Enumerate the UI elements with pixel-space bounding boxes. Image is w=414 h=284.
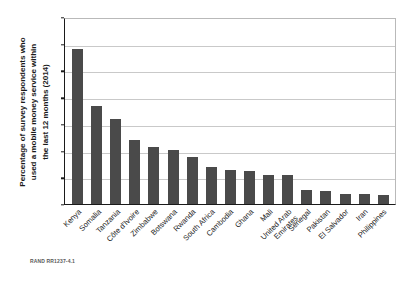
bar	[72, 49, 83, 204]
figure-credit: RAND RR1237-4.1	[30, 258, 75, 264]
bar	[320, 191, 331, 204]
bar	[129, 140, 140, 204]
x-axis-labels: KenyaSomaliaTanzaniaCôte d'IvoireZimbabw…	[64, 205, 396, 267]
bar	[359, 194, 370, 204]
y-axis-title-line-3: the last 12 months (2014)	[40, 37, 51, 186]
bar	[282, 175, 293, 204]
bar	[91, 106, 102, 204]
bar	[110, 119, 121, 204]
bar	[168, 150, 179, 204]
bar	[244, 171, 255, 204]
bar	[206, 167, 217, 204]
bar	[187, 157, 198, 204]
y-axis-title: Percentage of survey respondents who use…	[14, 14, 54, 210]
bar	[340, 194, 351, 204]
bar	[378, 195, 389, 204]
bar	[148, 147, 159, 204]
x-tick-label: Ghana	[233, 208, 255, 230]
figure-mobile-money-bar-chart: Percentage of survey respondents who use…	[0, 0, 414, 284]
y-axis-title-line-2: used a mobile money service within	[28, 37, 39, 186]
bar	[225, 170, 236, 204]
plot-area	[64, 18, 396, 205]
bar	[301, 190, 312, 204]
bar-series	[65, 19, 395, 204]
y-axis-title-line-1: Percentage of survey respondents who	[17, 37, 28, 186]
bar	[263, 175, 274, 204]
